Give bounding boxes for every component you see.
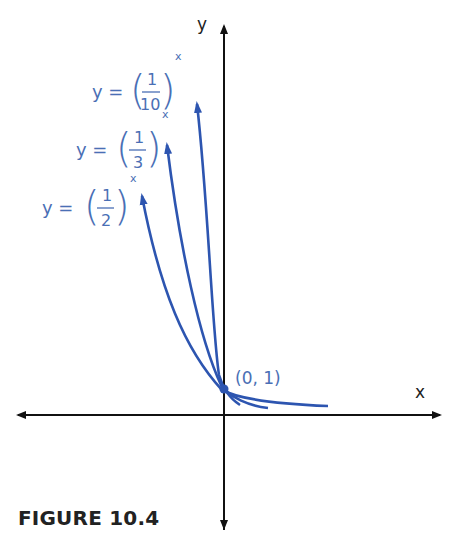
svg-text:y =: y = bbox=[92, 81, 123, 102]
equation-one-tenth: y = ( 1 10 ) x bbox=[92, 50, 182, 114]
svg-text:y =: y = bbox=[42, 197, 73, 218]
svg-text:): ) bbox=[146, 125, 162, 171]
svg-text:1: 1 bbox=[102, 186, 112, 205]
svg-text:): ) bbox=[114, 183, 130, 229]
point-0-1 bbox=[220, 385, 229, 394]
svg-text:y =: y = bbox=[76, 139, 107, 160]
x-axis-label: x bbox=[415, 382, 425, 402]
figure-caption: FIGURE 10.4 bbox=[18, 506, 159, 530]
svg-text:x: x bbox=[130, 172, 137, 185]
point-label: (0, 1) bbox=[235, 368, 281, 388]
svg-text:10: 10 bbox=[140, 95, 160, 114]
chart-canvas: y x (0, 1) y = ( 1 10 ) x y = ( 1 3 ) x … bbox=[0, 0, 453, 557]
curve-one-tenth bbox=[197, 104, 240, 405]
svg-text:(: ( bbox=[84, 183, 100, 229]
svg-text:1: 1 bbox=[147, 70, 157, 89]
svg-text:x: x bbox=[162, 108, 169, 121]
svg-text:x: x bbox=[175, 50, 182, 63]
svg-text:3: 3 bbox=[133, 153, 143, 172]
svg-text:2: 2 bbox=[101, 211, 111, 230]
svg-text:(: ( bbox=[116, 125, 132, 171]
equation-one-half: y = ( 1 2 ) x bbox=[42, 172, 137, 230]
equation-one-third: y = ( 1 3 ) x bbox=[76, 108, 169, 172]
svg-text:): ) bbox=[160, 67, 176, 113]
y-axis-label: y bbox=[197, 14, 207, 34]
svg-text:1: 1 bbox=[134, 128, 144, 147]
